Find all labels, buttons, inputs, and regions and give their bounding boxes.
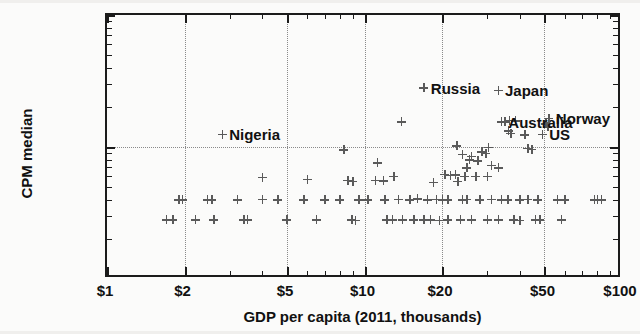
data-point-marker <box>391 275 400 276</box>
data-point-marker <box>483 215 492 224</box>
y-tick-minor <box>107 55 112 56</box>
data-point-marker <box>408 275 417 276</box>
data-point-marker <box>557 215 566 224</box>
data-point-marker <box>191 215 200 224</box>
x-tick-major <box>442 15 444 23</box>
data-point-marker <box>236 275 245 276</box>
data-point-marker <box>115 275 124 276</box>
data-point-marker <box>399 275 408 276</box>
data-point-marker <box>456 215 465 224</box>
x-tick-label: $1 <box>97 282 114 299</box>
data-point-marker <box>560 195 569 204</box>
y-tick-minor <box>613 68 618 69</box>
data-point-marker <box>207 195 216 204</box>
data-point-marker <box>429 275 438 276</box>
annotated-point-marker <box>419 83 428 92</box>
data-point-marker <box>453 177 462 186</box>
x-tick-minor <box>340 271 341 275</box>
data-point-marker <box>203 195 212 204</box>
x-tick-minor <box>520 15 521 19</box>
data-point-marker <box>320 195 329 204</box>
data-point-marker <box>462 163 471 172</box>
data-point-marker <box>405 195 414 204</box>
y-tick-minor <box>613 167 618 168</box>
data-point-marker <box>168 215 177 224</box>
data-point-marker <box>494 86 503 95</box>
data-point-marker <box>509 215 518 224</box>
x-tick-minor <box>262 271 263 275</box>
data-point-marker <box>515 216 524 225</box>
x-tick-major <box>107 267 109 275</box>
data-point-marker <box>233 195 242 204</box>
x-tick-minor <box>325 271 326 275</box>
data-point-marker <box>458 195 467 204</box>
annotated-point-marker <box>497 117 506 126</box>
x-tick-label: $10 <box>350 282 375 299</box>
x-tick-minor <box>520 271 521 275</box>
data-point-marker <box>475 195 484 204</box>
x-tick-major <box>287 15 289 23</box>
y-tick-minor <box>107 187 112 188</box>
annotated-point-marker <box>218 130 227 139</box>
x-tick-minor <box>340 15 341 19</box>
y-tick-minor <box>107 44 112 45</box>
data-point-marker <box>497 195 506 204</box>
data-point-marker <box>359 275 368 276</box>
x-tick-minor <box>325 15 326 19</box>
annotation-label-norway: Norway <box>556 110 610 127</box>
y-tick-minor <box>613 160 618 161</box>
x-tick-minor <box>565 15 566 19</box>
data-point-marker <box>477 147 486 156</box>
y-tick-minor <box>107 176 112 177</box>
x-tick-minor <box>262 15 263 19</box>
x-tick-minor <box>597 271 598 275</box>
data-point-marker <box>193 275 202 276</box>
data-point-marker <box>443 215 452 224</box>
data-point-marker <box>448 275 457 276</box>
data-point-marker <box>503 195 512 204</box>
data-point-marker <box>423 195 432 204</box>
y-tick-minor <box>613 55 618 56</box>
data-point-marker <box>367 275 376 276</box>
data-point-marker <box>244 275 253 276</box>
data-point-marker <box>174 195 183 204</box>
data-point-marker <box>277 275 286 276</box>
y-tick-minor <box>107 28 112 29</box>
data-point-marker <box>395 275 404 276</box>
data-point-marker <box>487 161 496 170</box>
y-tick-minor <box>107 107 112 108</box>
y-tick-minor <box>613 153 618 154</box>
data-point-marker <box>494 163 503 172</box>
data-point-marker <box>341 275 350 276</box>
data-point-marker <box>490 275 499 276</box>
data-point-marker <box>243 215 252 224</box>
y-tick-major <box>107 15 115 17</box>
data-point-marker <box>207 275 216 276</box>
data-point-marker <box>162 215 171 224</box>
data-point-marker <box>425 275 434 276</box>
data-point-marker <box>432 195 441 204</box>
data-point-marker <box>303 175 312 184</box>
data-point-marker <box>290 275 299 276</box>
y-tick-minor <box>613 28 618 29</box>
data-point-marker <box>467 152 476 161</box>
y-tick-minor <box>107 84 112 85</box>
data-point-marker <box>505 275 514 276</box>
data-point-marker <box>227 275 236 276</box>
y-tick-minor <box>107 216 112 217</box>
y-tick-minor <box>613 187 618 188</box>
data-point-marker <box>553 195 562 204</box>
y-tick-minor <box>613 200 618 201</box>
data-point-marker <box>515 195 524 204</box>
data-point-marker <box>417 275 426 276</box>
gridline-vertical <box>442 15 443 275</box>
gridline-vertical <box>287 15 288 275</box>
y-tick-major <box>610 147 618 149</box>
data-point-marker <box>312 215 321 224</box>
data-point-marker <box>523 195 532 204</box>
y-tick-major <box>107 147 115 149</box>
y-tick-major <box>610 15 618 17</box>
y-tick-minor <box>613 84 618 85</box>
data-point-marker <box>462 195 471 204</box>
data-point-marker <box>487 195 496 204</box>
